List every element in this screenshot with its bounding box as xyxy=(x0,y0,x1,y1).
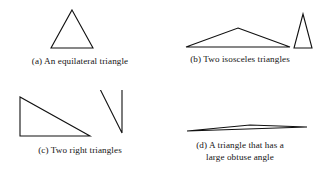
figure-panel-c: (c) Two right triangles xyxy=(0,90,160,180)
figure-panel-d: (d) A triangle that has a large obtuse a… xyxy=(160,90,320,180)
equilateral-triangle xyxy=(51,10,93,48)
narrow-isosceles-triangle xyxy=(294,14,312,48)
caption-c: (c) Two right triangles xyxy=(0,145,160,157)
figure-panel-b: (b) Two isosceles triangles xyxy=(160,0,320,90)
obtuse-sliver-triangle xyxy=(187,125,307,131)
figure-panel-a: (a) An equilateral triangle xyxy=(0,0,160,90)
triangle-figure-page: (a) An equilateral triangle (b) Two isos… xyxy=(0,0,320,180)
shape-area-b xyxy=(160,0,320,90)
caption-d: (d) A triangle that has a large obtuse a… xyxy=(160,140,320,163)
right-triangle-left xyxy=(20,97,90,136)
wide-isosceles-triangle xyxy=(186,28,290,47)
shape-area-a xyxy=(0,0,160,90)
shape-area-c xyxy=(0,90,160,180)
shape-area-d xyxy=(160,90,320,180)
right-triangle-right xyxy=(100,90,122,133)
caption-a: (a) An equilateral triangle xyxy=(0,56,160,68)
caption-b: (b) Two isosceles triangles xyxy=(160,54,320,66)
